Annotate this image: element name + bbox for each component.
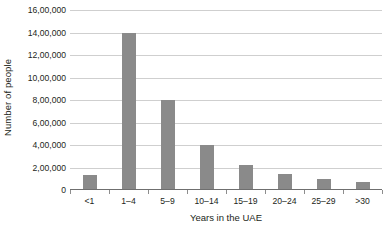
x-axis-tick-label: 25–29 — [304, 194, 343, 210]
bar-slot — [226, 10, 265, 190]
y-axis-tick-label: 0 — [14, 186, 66, 195]
bar-chart-figure: Number of people 02,00,0004,00,0006,00,0… — [0, 0, 386, 238]
y-axis-tick-label: 4,00,000 — [14, 141, 66, 150]
x-axis-title: Years in the UAE — [70, 212, 382, 223]
bars-layer — [70, 10, 382, 190]
bar-slot — [343, 10, 382, 190]
y-axis-title-text: Number of people — [3, 59, 14, 136]
y-axis-tick-label: 2,00,000 — [14, 163, 66, 172]
bar — [122, 33, 136, 191]
x-axis-tick-labels: <11–45–910–1415–1920–2425–29>30 — [70, 194, 382, 210]
y-axis-tick-label: 14,00,000 — [14, 28, 66, 37]
bar-slot — [187, 10, 226, 190]
x-axis-tick-label: >30 — [343, 194, 382, 210]
y-axis-tick-label: 6,00,000 — [14, 118, 66, 127]
x-axis-tick-label: 15–19 — [226, 194, 265, 210]
x-axis-tick-label: <1 — [70, 194, 109, 210]
y-axis-tick-label: 12,00,000 — [14, 51, 66, 60]
x-axis-tick-label: 5–9 — [148, 194, 187, 210]
bar — [161, 100, 175, 190]
x-axis-tick — [382, 190, 383, 194]
bar-slot — [70, 10, 109, 190]
bar-slot — [148, 10, 187, 190]
bar-slot — [109, 10, 148, 190]
bar — [200, 145, 214, 190]
y-axis-tick-label: 16,00,000 — [14, 6, 66, 15]
bar — [278, 174, 292, 190]
y-axis-tick-labels: 02,00,0004,00,0006,00,0008,00,00010,00,0… — [14, 10, 66, 190]
plot-area — [70, 10, 382, 190]
bar-slot — [265, 10, 304, 190]
bar — [239, 165, 253, 190]
x-axis-tick-label: 20–24 — [265, 194, 304, 210]
bar-slot — [304, 10, 343, 190]
x-axis-tick-label: 1–4 — [109, 194, 148, 210]
x-axis-tick-label: 10–14 — [187, 194, 226, 210]
y-axis-tick-label: 10,00,000 — [14, 73, 66, 82]
y-axis-tick-label: 8,00,000 — [14, 96, 66, 105]
